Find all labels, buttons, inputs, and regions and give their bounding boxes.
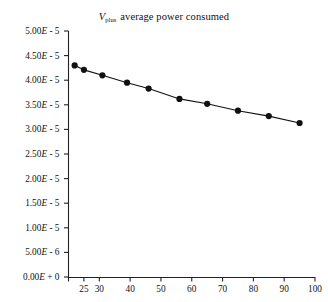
data-point-marker: [72, 62, 78, 68]
x-tick-label: 30: [95, 284, 104, 294]
data-point-marker: [124, 80, 130, 86]
y-tick-label: 1.00E - 5: [0, 223, 60, 233]
y-tick-label: 2.00E - 5: [0, 174, 60, 184]
y-tick-label: 5.00E - 5: [0, 26, 60, 36]
data-point-marker: [235, 108, 241, 114]
y-axis-ticks: [64, 31, 69, 277]
x-tick-label: 100: [308, 284, 322, 294]
data-point-marker: [266, 113, 272, 119]
data-point-marker: [81, 67, 87, 73]
x-tick-label: 50: [156, 284, 165, 294]
x-tick-label: 70: [218, 284, 227, 294]
chart-figure: Vplusaverage power consumed 0.00E + 05.0…: [0, 0, 328, 302]
x-tick-label: 90: [280, 284, 289, 294]
data-point-marker: [99, 72, 105, 78]
data-point-marker: [176, 96, 182, 102]
data-series-line: [75, 65, 300, 123]
y-tick-label: 5.00E - 6: [0, 247, 60, 257]
y-tick-label: 3.50E - 5: [0, 100, 60, 110]
x-tick-label: 25: [79, 284, 88, 294]
y-tick-label: 2.50E - 5: [0, 149, 60, 159]
y-tick-label: 4.00E - 5: [0, 75, 60, 85]
data-point-marker: [146, 85, 152, 91]
y-tick-label: 4.50E - 5: [0, 51, 60, 61]
data-point-marker: [296, 120, 302, 126]
axes: [69, 31, 316, 278]
y-tick-label: 1.50E - 5: [0, 198, 60, 208]
y-tick-label: 3.00E - 5: [0, 124, 60, 134]
data-point-marker: [204, 101, 210, 107]
data-point-markers: [72, 62, 303, 126]
x-tick-label: 40: [125, 284, 134, 294]
y-tick-label: 0.00E + 0: [0, 272, 60, 282]
x-tick-label: 60: [187, 284, 196, 294]
x-tick-label: 80: [249, 284, 258, 294]
